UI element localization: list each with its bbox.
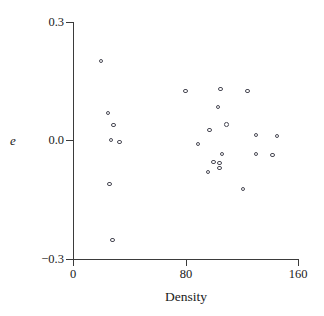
data-point-marker xyxy=(217,166,222,171)
scatter-plot-figure: 0.30.0−0.3 080160 e Density xyxy=(0,0,324,316)
y-tick-label: 0.3 xyxy=(18,16,64,29)
x-tick-label: 160 xyxy=(278,268,318,281)
data-point-marker xyxy=(117,140,122,145)
data-point-marker xyxy=(245,89,250,94)
y-tick-label: 0.0 xyxy=(18,134,64,147)
y-tick-label: −0.3 xyxy=(18,253,64,266)
y-tick-mark xyxy=(66,22,73,23)
data-point-marker xyxy=(211,160,216,165)
data-point-marker xyxy=(107,182,112,187)
x-tick-label: 0 xyxy=(53,268,93,281)
data-point-marker xyxy=(110,238,115,243)
y-axis-label: e xyxy=(10,133,16,149)
x-tick-mark xyxy=(73,259,74,266)
x-tick-mark xyxy=(186,259,187,266)
x-axis-label: Density xyxy=(73,289,299,305)
data-point-marker xyxy=(224,122,229,127)
x-tick-mark xyxy=(298,259,299,266)
data-point-marker xyxy=(207,128,212,133)
plot-area xyxy=(73,22,298,259)
x-tick-label: 80 xyxy=(166,268,206,281)
y-tick-mark xyxy=(66,259,73,260)
y-tick-mark xyxy=(66,140,73,141)
data-point-marker xyxy=(217,161,222,166)
